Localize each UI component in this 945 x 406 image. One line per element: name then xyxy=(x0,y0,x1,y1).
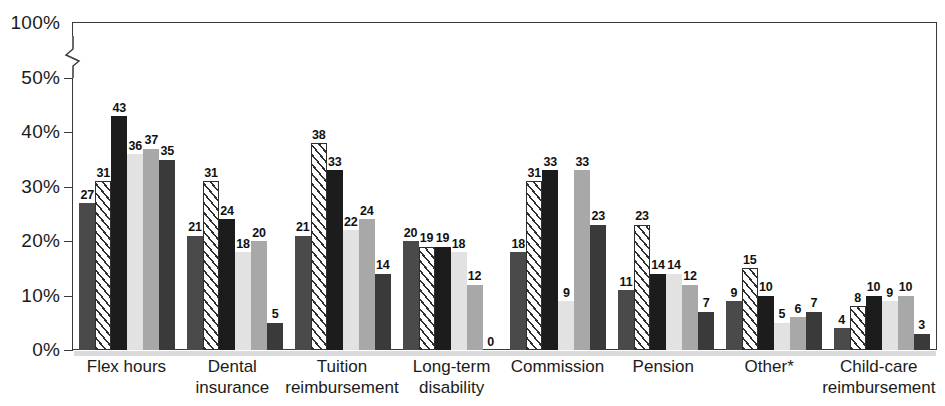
bar-value-label: 12 xyxy=(683,270,697,283)
bar-value-label: 27 xyxy=(80,189,94,202)
bar-slot: 3 xyxy=(914,22,930,350)
bar xyxy=(682,285,698,350)
bar xyxy=(898,296,914,350)
bar-value-label: 15 xyxy=(743,254,757,267)
bar-value-label: 37 xyxy=(144,134,158,147)
bar-group: 18313393323 xyxy=(505,22,613,350)
x-axis-category-label: Tuitionreimbursement xyxy=(285,352,398,404)
bar-value-label: 9 xyxy=(563,287,570,300)
bar xyxy=(143,149,159,350)
bar xyxy=(235,252,251,350)
bar xyxy=(866,296,882,350)
bar xyxy=(311,143,327,350)
bar xyxy=(698,312,714,350)
bar xyxy=(806,312,822,350)
bar-value-label: 5 xyxy=(778,308,785,321)
bar-slot: 33 xyxy=(574,22,590,350)
bar-value-label: 23 xyxy=(591,210,605,223)
bar-value-label: 23 xyxy=(635,210,649,223)
bar-slot: 27 xyxy=(79,22,95,350)
x-axis-label-line: Other* xyxy=(716,356,822,377)
bar-slot: 12 xyxy=(467,22,483,350)
bar-slot: 33 xyxy=(327,22,343,350)
x-axis: Flex hoursDental insuranceTuitionreimbur… xyxy=(74,352,936,404)
bar-slot: 20 xyxy=(403,22,419,350)
bar-value-label: 10 xyxy=(899,281,913,294)
bar-value-label: 38 xyxy=(312,129,326,142)
bar-slot: 15 xyxy=(742,22,758,350)
y-axis-tick-label: 10% xyxy=(21,285,60,307)
bar xyxy=(419,247,435,350)
bar-slot: 37 xyxy=(143,22,159,350)
bar xyxy=(159,160,175,350)
bar-group: 11231414127 xyxy=(612,22,720,350)
bar-value-label: 12 xyxy=(468,270,482,283)
x-axis-category-label: Other* xyxy=(716,352,822,404)
bar-value-label: 33 xyxy=(543,156,557,169)
bar-value-label: 20 xyxy=(252,227,266,240)
bar-slot: 4 xyxy=(834,22,850,350)
bar-value-label: 10 xyxy=(759,281,773,294)
bar xyxy=(375,274,391,350)
bar xyxy=(451,252,467,350)
bar-slot: 35 xyxy=(159,22,175,350)
bar xyxy=(542,170,558,350)
y-axis-tick-label: 0% xyxy=(32,339,60,361)
bar-value-label: 18 xyxy=(236,238,250,251)
bar-value-label: 31 xyxy=(96,167,110,180)
y-axis-tick-label: 100% xyxy=(11,12,60,34)
bar xyxy=(882,301,898,350)
bar-value-label: 31 xyxy=(527,167,541,180)
bar-value-label: 3 xyxy=(918,319,925,332)
x-axis-category-label: Commission xyxy=(505,352,611,404)
x-axis-label-line: reimbursement xyxy=(822,377,935,398)
bar xyxy=(758,296,774,350)
bar-value-label: 35 xyxy=(160,145,174,158)
bar xyxy=(834,328,850,350)
bar xyxy=(726,301,742,350)
bar-slot: 10 xyxy=(758,22,774,350)
bar xyxy=(618,290,634,350)
bar-slot: 7 xyxy=(806,22,822,350)
bar-value-label: 6 xyxy=(794,303,801,316)
bar-slot: 7 xyxy=(698,22,714,350)
bar-slot: 18 xyxy=(235,22,251,350)
bar-slot: 14 xyxy=(375,22,391,350)
x-axis-label-line: Dental insurance xyxy=(179,356,285,398)
bar-value-label: 4 xyxy=(838,314,845,327)
bar-value-label: 7 xyxy=(810,297,817,310)
bar xyxy=(403,241,419,350)
bar xyxy=(343,230,359,350)
bar-value-label: 33 xyxy=(575,156,589,169)
y-axis-tick-mark xyxy=(64,350,73,351)
bar-value-label: 21 xyxy=(188,221,202,234)
bar-group: 48109103 xyxy=(828,22,936,350)
bar-value-label: 19 xyxy=(436,232,450,245)
x-axis-label-line: Commission xyxy=(505,356,611,377)
bar-value-label: 20 xyxy=(404,227,418,240)
bar-value-label: 43 xyxy=(112,102,126,115)
x-axis-label-line: Pension xyxy=(610,356,716,377)
x-axis-label-line: reimbursement xyxy=(285,377,398,398)
bar xyxy=(435,247,451,350)
bar-slot: 31 xyxy=(526,22,542,350)
bar-slot: 38 xyxy=(311,22,327,350)
bar-slot: 20 xyxy=(251,22,267,350)
x-axis-label-line: Long-term xyxy=(399,356,505,377)
bar-slot: 9 xyxy=(726,22,742,350)
x-axis-category-label: Dental insurance xyxy=(179,352,285,404)
bar xyxy=(914,334,930,350)
bar-slot: 12 xyxy=(682,22,698,350)
x-axis-label-line: disability xyxy=(399,377,505,398)
bar xyxy=(510,252,526,350)
bar-slot: 19 xyxy=(435,22,451,350)
bar-value-label: 9 xyxy=(730,287,737,300)
bar xyxy=(666,274,682,350)
bar xyxy=(590,225,606,350)
y-axis-tick-label: 20% xyxy=(21,230,60,252)
bar-slot: 14 xyxy=(666,22,682,350)
bar xyxy=(127,154,143,350)
bar-slot: 18 xyxy=(510,22,526,350)
bar-slot: 21 xyxy=(187,22,203,350)
bar xyxy=(467,285,483,350)
